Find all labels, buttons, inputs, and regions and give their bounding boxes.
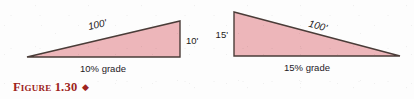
diamond-icon: ◆ (82, 83, 89, 92)
figure-1-30: 100' 10' 10% grade 100' 15' 15% grade Fi… (0, 0, 414, 99)
right-triangle-group: 100' 15' 15% grade (216, 12, 400, 73)
figure-caption-label: Figure 1.30 (13, 80, 77, 95)
right-triangle-vertical-label: 15' (216, 29, 229, 40)
triangles-diagram: 100' 10' 10% grade 100' 15' 15% grade (0, 0, 414, 78)
left-triangle-hypotenuse-label: 100' (87, 17, 109, 32)
left-triangle-vertical-label: 10' (186, 35, 199, 46)
left-triangle-base-label: 10% grade (80, 63, 126, 74)
left-triangle-group: 100' 10' 10% grade (27, 17, 199, 74)
right-triangle-shape (234, 12, 400, 56)
right-triangle-hypotenuse-label: 100' (308, 18, 330, 34)
figure-caption: Figure 1.30 ◆ (13, 79, 89, 95)
right-triangle-base-label: 15% grade (284, 62, 330, 73)
